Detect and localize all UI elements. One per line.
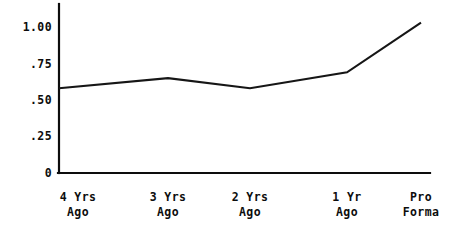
- y-tick-label-0: 0: [45, 166, 52, 180]
- y-tick-label-0.25: .25: [30, 129, 52, 143]
- x-tick-label-pro-forma-line1: Pro: [410, 190, 432, 204]
- x-tick-label-2-yrs-ago-line2: Ago: [239, 205, 261, 219]
- x-tick-label-4-yrs-ago-line2: Ago: [67, 205, 89, 219]
- data-series-line: [59, 23, 421, 89]
- x-tick-label-4-yrs-ago-line1: 4 Yrs: [60, 190, 97, 204]
- x-tick-label-1-yr-ago-line2: Ago: [336, 205, 358, 219]
- x-tick-label-pro-forma-line2: Forma: [403, 205, 440, 219]
- x-tick-label-3-yrs-ago-line2: Ago: [157, 205, 179, 219]
- y-tick-label-0.50: .50: [30, 93, 52, 107]
- y-tick-label-0.75: .75: [30, 57, 52, 71]
- line-chart: 1.00 .75 .50 .25 0 4 Yrs Ago 3 Yrs Ago 2…: [0, 0, 457, 233]
- y-tick-label-1.00: 1.00: [23, 20, 52, 34]
- x-tick-label-1-yr-ago-line1: 1 Yr: [332, 190, 361, 204]
- x-tick-label-2-yrs-ago-line1: 2 Yrs: [232, 190, 269, 204]
- x-tick-label-3-yrs-ago-line1: 3 Yrs: [150, 190, 187, 204]
- chart-screenshot: 1.00 .75 .50 .25 0 4 Yrs Ago 3 Yrs Ago 2…: [0, 0, 457, 233]
